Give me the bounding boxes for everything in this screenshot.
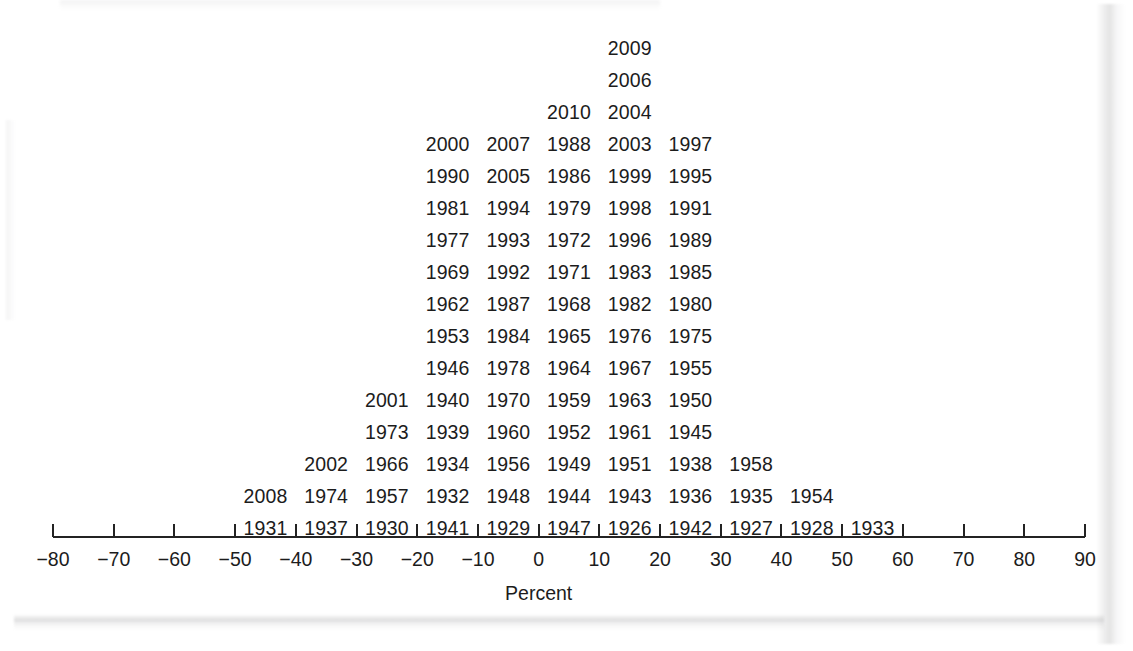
scanned-page: 2009200620102004200020071988200319971990… <box>0 0 1133 651</box>
x-axis-tick <box>598 524 600 537</box>
data-label: 1940 <box>426 391 470 411</box>
x-axis-tick-label: 10 <box>588 550 610 570</box>
x-axis-tick <box>902 524 904 537</box>
data-label: 1995 <box>669 167 713 187</box>
x-axis-tick <box>720 524 722 537</box>
data-label: 1977 <box>426 231 470 251</box>
x-axis-line <box>53 536 1085 538</box>
x-axis-tick <box>295 524 297 537</box>
data-label: 1960 <box>486 423 530 443</box>
data-label: 1974 <box>304 487 348 507</box>
x-axis-tick-label: 60 <box>892 550 914 570</box>
data-label: 1997 <box>669 135 713 155</box>
x-axis-tick-label: −20 <box>401 550 434 570</box>
data-label: 1984 <box>486 327 530 347</box>
data-label: 1957 <box>365 487 409 507</box>
data-label: 1987 <box>486 295 530 315</box>
data-label: 1954 <box>790 487 834 507</box>
data-label: 1990 <box>426 167 470 187</box>
data-label: 1966 <box>365 455 409 475</box>
x-axis-tick <box>841 524 843 537</box>
data-label: 1975 <box>669 327 713 347</box>
x-axis-tick-label: −50 <box>219 550 252 570</box>
x-axis-tick-label: 30 <box>710 550 732 570</box>
data-label: 1993 <box>486 231 530 251</box>
data-label: 1972 <box>547 231 591 251</box>
x-axis-tick <box>1023 524 1025 537</box>
data-label: 1945 <box>669 423 713 443</box>
data-label: 1953 <box>426 327 470 347</box>
x-axis-tick <box>538 524 540 537</box>
data-label: 1971 <box>547 263 591 283</box>
data-label: 1938 <box>669 455 713 475</box>
data-label: 1994 <box>486 199 530 219</box>
data-label: 1967 <box>608 359 652 379</box>
data-label: 1968 <box>547 295 591 315</box>
data-label: 1999 <box>608 167 652 187</box>
data-label: 2001 <box>365 391 409 411</box>
x-axis-tick-label: −60 <box>158 550 191 570</box>
data-label: 1944 <box>547 487 591 507</box>
data-label: 1939 <box>426 423 470 443</box>
data-label: 1932 <box>426 487 470 507</box>
data-label: 1986 <box>547 167 591 187</box>
data-label: 1950 <box>669 391 713 411</box>
data-label: 1959 <box>547 391 591 411</box>
data-label: 1979 <box>547 199 591 219</box>
data-label: 1973 <box>365 423 409 443</box>
data-label: 2010 <box>547 103 591 123</box>
data-label: 1934 <box>426 455 470 475</box>
data-label: 1989 <box>669 231 713 251</box>
data-label: 1955 <box>669 359 713 379</box>
x-axis-tick-label: 80 <box>1013 550 1035 570</box>
data-label: 1951 <box>608 455 652 475</box>
x-axis-tick-label: −80 <box>36 550 69 570</box>
data-label: 1985 <box>669 263 713 283</box>
year-dotplot-chart: 2009200620102004200020071988200319971990… <box>0 0 1133 651</box>
data-label: 1988 <box>547 135 591 155</box>
data-label: 1980 <box>669 295 713 315</box>
x-axis-tick-label: 20 <box>649 550 671 570</box>
x-axis-tick-label: −30 <box>340 550 373 570</box>
x-axis-tick <box>477 524 479 537</box>
x-axis-tick-label: 70 <box>953 550 975 570</box>
data-label: 1969 <box>426 263 470 283</box>
x-axis-tick <box>963 524 965 537</box>
x-axis-tick <box>780 524 782 537</box>
x-axis-tick-label: 90 <box>1074 550 1096 570</box>
data-label: 1981 <box>426 199 470 219</box>
x-axis-tick <box>356 524 358 537</box>
data-label: 1949 <box>547 455 591 475</box>
x-axis-tick <box>416 524 418 537</box>
x-axis-tick-label: −40 <box>279 550 312 570</box>
data-label: 2006 <box>608 71 652 91</box>
data-label: 1970 <box>486 391 530 411</box>
data-label: 2000 <box>426 135 470 155</box>
data-label: 1982 <box>608 295 652 315</box>
x-axis-tick-label: 50 <box>831 550 853 570</box>
data-label: 1961 <box>608 423 652 443</box>
data-label: 1992 <box>486 263 530 283</box>
data-label: 1952 <box>547 423 591 443</box>
data-label: 1991 <box>669 199 713 219</box>
x-axis-tick-label: −10 <box>461 550 494 570</box>
x-axis-tick <box>659 524 661 537</box>
x-axis-tick <box>234 524 236 537</box>
x-axis-tick-label: −70 <box>97 550 130 570</box>
x-axis-tick <box>52 524 54 537</box>
data-label: 2002 <box>304 455 348 475</box>
data-label: 1963 <box>608 391 652 411</box>
data-label: 1976 <box>608 327 652 347</box>
data-label: 1948 <box>486 487 530 507</box>
x-axis-tick-label: 0 <box>533 550 544 570</box>
data-label: 1983 <box>608 263 652 283</box>
data-label: 1935 <box>729 487 773 507</box>
x-axis-tick <box>113 524 115 537</box>
data-label: 1946 <box>426 359 470 379</box>
data-label: 2004 <box>608 103 652 123</box>
data-label: 1958 <box>729 455 773 475</box>
x-axis-tick-label: 40 <box>771 550 793 570</box>
data-label: 1996 <box>608 231 652 251</box>
x-axis-title: Percent <box>505 584 572 604</box>
data-label: 2003 <box>608 135 652 155</box>
